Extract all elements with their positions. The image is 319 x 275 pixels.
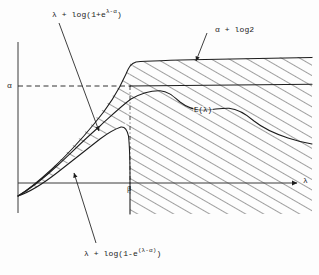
admissible-region-hatch — [0, 0, 319, 275]
label-curve-E-lambda: E(λ) — [193, 106, 213, 114]
ceiling-arrow — [196, 33, 207, 61]
upper-envelope-arrow — [59, 23, 99, 131]
figure-canvas — [0, 0, 319, 275]
axis-tick-beta: β — [127, 185, 131, 193]
label-ceiling: α + log2 — [215, 26, 254, 34]
curve-lower-envelope — [18, 127, 130, 214]
label-upper-envelope: λ + log(1+eλ-α) — [52, 11, 122, 19]
math-figure: λ + log(1+eλ-α) λ + log(1-e(λ-α)) α + lo… — [0, 0, 319, 275]
axis-label-x: λ — [303, 176, 308, 185]
axis-tick-alpha: α — [7, 81, 12, 90]
label-lower-envelope: λ + log(1-e(λ-α)) — [84, 250, 161, 258]
